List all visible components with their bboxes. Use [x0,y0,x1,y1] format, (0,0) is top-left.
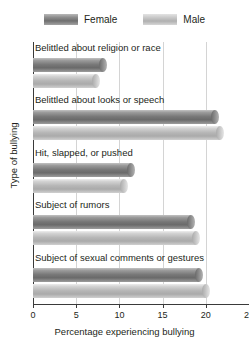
x-tick [163,304,164,308]
bar-female [33,163,135,177]
chart-legend: Female Male [0,14,249,25]
bar-female [33,215,195,229]
bar-female [33,268,203,282]
legend-label-female: Female [84,14,117,25]
x-axis: 0510152025 [33,304,249,305]
bar-cap [127,163,135,177]
bar-cap [99,58,107,72]
bar-male [33,126,224,140]
bar-body [33,179,124,193]
bar-body [33,58,103,72]
bar-female [33,110,219,124]
legend-swatch-female-icon [44,14,78,25]
bar-body [33,215,191,229]
x-tick-label: 5 [74,310,79,320]
bar-cap [187,215,195,229]
x-tick-label: 15 [158,310,168,320]
x-tick-label: 25 [244,310,249,320]
bar-cap [120,179,128,193]
bar-male [33,74,100,88]
bar-body [33,110,215,124]
legend-label-male: Male [183,14,205,25]
legend-entry-female: Female [44,14,117,25]
bar-male [33,231,200,245]
bar-cap [92,74,100,88]
chart-figure: Female Male Belittled about religion or … [0,0,249,350]
x-tick [76,304,77,308]
bar-body [33,163,131,177]
plot-area: Belittled about religion or raceBelittle… [33,42,249,304]
x-tick [119,304,120,308]
category-label: Subject of sexual comments or gestures [35,252,204,264]
bar-cap [211,110,219,124]
bar-cap [202,284,210,298]
bar-body [33,268,199,282]
bar-group: Belittled about religion or race [33,42,249,94]
bar-group: Subject of rumors [33,199,249,251]
bar-male [33,284,210,298]
bar-cap [195,268,203,282]
x-tick-label: 20 [201,310,211,320]
category-label: Subject of rumors [35,199,109,211]
bar-group: Subject of sexual comments or gestures [33,252,249,304]
bar-group: Hit, slapped, or pushed [33,147,249,199]
x-tick [206,304,207,308]
x-tick-label: 10 [114,310,124,320]
category-label: Belittled about looks or speech [35,94,164,106]
category-label: Hit, slapped, or pushed [35,147,133,159]
bar-cap [192,231,200,245]
x-tick-label: 0 [30,310,35,320]
bar-cap [216,126,224,140]
legend-entry-male: Male [143,14,205,25]
category-label: Belittled about religion or race [35,42,161,54]
bar-body [33,284,206,298]
bar-female [33,58,107,72]
x-tick [33,304,34,308]
bar-body [33,231,196,245]
bar-group: Belittled about looks or speech [33,94,249,146]
bar-body [33,126,220,140]
bar-male [33,179,128,193]
x-axis-label: Percentage experiencing bullying [0,326,249,337]
bar-body [33,74,96,88]
legend-swatch-male-icon [143,14,177,25]
y-axis-label: Type of bullying [8,91,19,221]
